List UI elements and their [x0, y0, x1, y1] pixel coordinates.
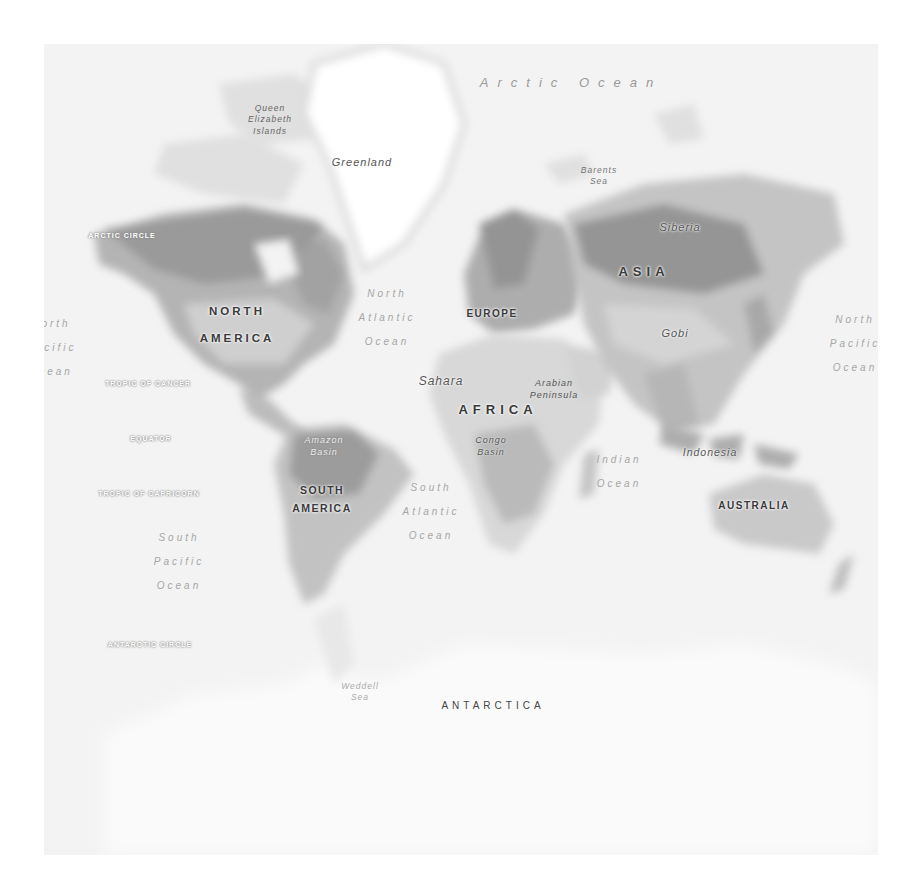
congo-line-2: Basin [475, 446, 507, 458]
indian-ocean-label: IndianOcean [596, 448, 641, 496]
europe-label: EUROPE [466, 307, 517, 321]
antarctica-label: ANTARCTICA [441, 699, 544, 713]
south-atlantic-line-2: Atlantic [403, 500, 460, 524]
weddell-line-1: Weddell [341, 681, 379, 692]
siberia-label: Siberia [659, 220, 700, 235]
barents-line-2: Sea [581, 176, 617, 187]
congo-line-1: Congo [475, 434, 507, 446]
north-america-label: NORTHAMERICA [200, 298, 275, 352]
queen-elizabeth-line-2: Elizabeth [248, 114, 292, 125]
north-pacific-west-line-1: orth [44, 312, 76, 336]
indian-ocean-line-2: Ocean [596, 472, 641, 496]
queen-elizabeth-line-1: Queen [248, 103, 292, 114]
north-america-line-1: NORTH [200, 298, 275, 325]
south-pacific-label: SouthPacificOcean [154, 526, 204, 598]
africa-label: AFRICA [458, 401, 537, 419]
antarctica-shape [104, 644, 878, 855]
gobi-label: Gobi [661, 326, 688, 341]
asia-label: ASIA [618, 263, 669, 281]
arabian-line-1: Arabian [530, 377, 579, 389]
amazon-basin-label: AmazonBasin [304, 434, 343, 458]
north-atlantic-label: NorthAtlanticOcean [359, 282, 416, 354]
weddell-line-2: Sea [341, 692, 379, 703]
world-map[interactable]: Arctic Ocean BarentsSea NorthAtlanticOce… [44, 44, 878, 855]
barents-line-1: Barents [581, 165, 617, 176]
north-pacific-west-line-2: acific [44, 336, 76, 360]
amazon-line-1: Amazon [304, 434, 343, 446]
north-atlantic-line-3: Ocean [359, 330, 416, 354]
congo-basin-label: CongoBasin [475, 434, 507, 458]
arabian-peninsula-label: ArabianPeninsula [530, 377, 579, 401]
south-atlantic-label: SouthAtlanticOcean [403, 476, 460, 548]
north-pacific-east-line-3: Ocean [830, 356, 878, 380]
south-america-label: SOUTHAMERICA [292, 481, 352, 517]
antarctic-circle-label: ANTARCTIC CIRCLE [108, 640, 192, 649]
north-pacific-west-label: orthacificcean [44, 312, 76, 384]
north-atlantic-line-1: North [359, 282, 416, 306]
tropic-of-capricorn-label: TROPIC OF CAPRICORN [98, 489, 199, 498]
north-pacific-west-line-3: cean [44, 360, 76, 384]
queen-elizabeth-line-3: Islands [248, 126, 292, 137]
greenland-label: Greenland [332, 155, 392, 170]
arabian-line-2: Peninsula [530, 389, 579, 401]
north-atlantic-line-2: Atlantic [359, 306, 416, 330]
barents-sea-label: BarentsSea [581, 165, 617, 188]
arctic-ocean-label: Arctic Ocean [480, 74, 662, 92]
indonesia-label: Indonesia [683, 445, 738, 459]
south-america-line-1: SOUTH [292, 481, 352, 499]
queen-elizabeth-islands-label: QueenElizabethIslands [248, 103, 292, 137]
north-pacific-east-line-2: Pacific [830, 332, 878, 356]
map-landmass-layer [44, 44, 878, 855]
indian-ocean-line-1: Indian [596, 448, 641, 472]
north-pacific-east-line-1: North [830, 308, 878, 332]
equator-label: EQUATOR [130, 434, 171, 443]
australia-label: AUSTRALIA [718, 499, 789, 513]
south-pacific-line-3: Ocean [154, 574, 204, 598]
south-pacific-line-2: Pacific [154, 550, 204, 574]
south-pacific-line-1: South [154, 526, 204, 550]
weddell-sea-label: WeddellSea [341, 681, 379, 704]
north-pacific-east-label: NorthPacificOcean [830, 308, 878, 380]
south-america-line-2: AMERICA [292, 499, 352, 517]
sahara-label: Sahara [419, 373, 464, 389]
amazon-line-2: Basin [304, 446, 343, 458]
arctic-circle-label: ARCTIC CIRCLE [88, 231, 155, 240]
north-america-line-2: AMERICA [200, 325, 275, 352]
south-atlantic-line-1: South [403, 476, 460, 500]
south-atlantic-line-3: Ocean [403, 524, 460, 548]
tropic-of-cancer-label: TROPIC OF CANCER [105, 379, 191, 388]
